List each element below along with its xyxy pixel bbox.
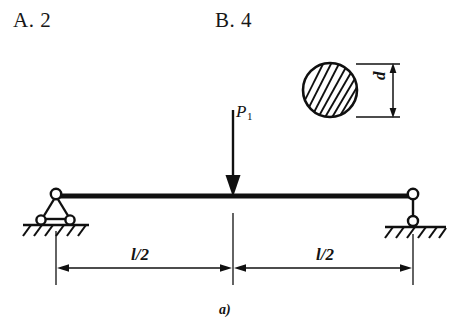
span-right-arrow-end	[400, 264, 412, 271]
span-left-label: l/2	[131, 246, 149, 263]
diameter-label: d	[371, 72, 388, 81]
roller-hinge-bottom	[408, 216, 418, 226]
span-left-arrow-start	[57, 264, 69, 271]
load-label-symbol: P	[236, 102, 246, 121]
span-right-label: l/2	[316, 246, 334, 263]
span-dimensions	[57, 264, 412, 271]
span-left-arrow-end	[220, 264, 232, 271]
right-ground-hatching	[385, 227, 446, 238]
beam-diagram	[0, 0, 469, 326]
left-ground-hatching	[23, 225, 86, 236]
load-arrow-group	[226, 110, 241, 197]
figure-caption: a)	[219, 303, 231, 317]
roller-hinge-top	[408, 189, 418, 199]
cross-section-group	[296, 58, 400, 126]
pin-hinge-top	[51, 189, 61, 199]
span-right-arrow-start	[234, 264, 246, 271]
pin-hinge-left	[36, 215, 45, 224]
load-label: P1	[236, 103, 252, 120]
figure-page: A. 2 B. 4	[0, 0, 469, 326]
load-label-subscript: 1	[247, 110, 253, 122]
pin-hinge-right	[65, 215, 74, 224]
dimension-extension-lines	[56, 213, 413, 285]
